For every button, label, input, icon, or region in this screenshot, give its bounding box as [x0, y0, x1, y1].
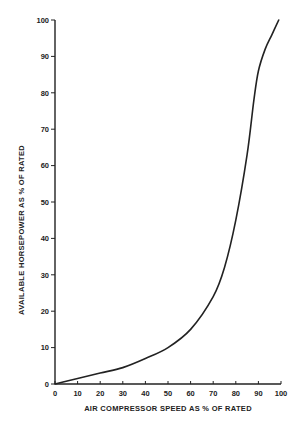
y-tick-label: 80	[41, 89, 49, 98]
y-tick-label: 100	[36, 16, 49, 25]
x-tick-label: 100	[275, 389, 288, 398]
y-tick-label: 0	[45, 380, 49, 389]
y-tick-label: 10	[41, 343, 49, 352]
x-axis-title: AIR COMPRESSOR SPEED AS % OF RATED	[84, 404, 252, 413]
x-tick-label: 20	[96, 389, 104, 398]
y-tick-label: 90	[41, 52, 49, 61]
x-tick-label: 50	[164, 389, 172, 398]
y-tick-label: 20	[41, 307, 49, 316]
y-tick-label: 50	[41, 198, 49, 207]
y-tick-label: 70	[41, 125, 49, 134]
data-curve	[55, 20, 279, 384]
x-tick-label: 10	[73, 389, 81, 398]
x-tick-label: 0	[53, 389, 57, 398]
y-tick-label: 30	[41, 271, 49, 280]
y-axis-ticks: 0102030405060708090100	[36, 16, 55, 389]
x-tick-label: 60	[186, 389, 194, 398]
y-tick-label: 40	[41, 234, 49, 243]
x-tick-label: 70	[209, 389, 217, 398]
x-tick-label: 80	[232, 389, 240, 398]
chart: 0102030405060708090100 01020304050607080…	[0, 0, 305, 427]
x-tick-label: 40	[141, 389, 149, 398]
y-tick-label: 60	[41, 161, 49, 170]
y-axis-title: AVAILABLE HORSEPOWER AS % OF RATED	[17, 145, 26, 315]
x-tick-label: 30	[119, 389, 127, 398]
x-tick-label: 90	[254, 389, 262, 398]
